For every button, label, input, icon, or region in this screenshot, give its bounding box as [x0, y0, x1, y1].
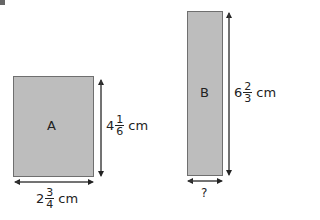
dimension-a-height: 4 1 6 cm — [106, 114, 148, 137]
denominator: 4 — [46, 199, 53, 210]
whole-number: 2 — [36, 191, 44, 206]
fraction: 1 6 — [115, 114, 124, 137]
denominator: 3 — [244, 93, 251, 104]
fraction: 2 3 — [243, 81, 252, 104]
dimension-b-width-unknown: ? — [201, 186, 207, 200]
fraction: 3 4 — [45, 187, 54, 210]
whole-number: 6 — [234, 85, 242, 100]
unit: cm — [256, 85, 276, 100]
unit: cm — [128, 118, 148, 133]
unit: cm — [58, 191, 78, 206]
dimension-b-height: 6 2 3 cm — [234, 81, 276, 104]
dimension-a-width: 2 3 4 cm — [36, 187, 78, 210]
denominator: 6 — [116, 126, 123, 137]
whole-number: 4 — [106, 118, 114, 133]
